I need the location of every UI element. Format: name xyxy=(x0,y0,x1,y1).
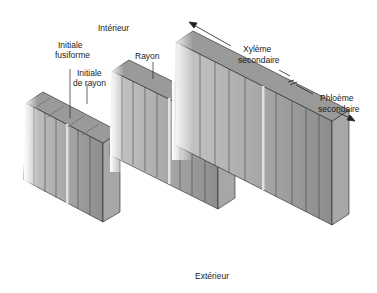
label-ray-initial-line2: de rayon xyxy=(73,78,106,88)
block-3-ray xyxy=(262,86,265,190)
block-1 xyxy=(24,92,120,222)
label-xylem-line2: secondaire xyxy=(238,55,280,65)
block-1-ray xyxy=(66,124,69,204)
label-phloem-line1: Phloème xyxy=(320,93,354,103)
label-exterior: Extérieur xyxy=(195,271,229,281)
block-3-front xyxy=(332,110,349,225)
cambium-diagram xyxy=(0,0,377,293)
label-fusiform-initial-line2: fusiforme xyxy=(55,50,90,60)
label-ray: Rayon xyxy=(135,51,160,61)
label-fusiform-initial-line1: Initiale xyxy=(58,40,83,50)
label-ray-initial-line1: Initiale xyxy=(77,68,102,78)
block-2-ray xyxy=(168,98,171,184)
label-xylem-line1: Xylème xyxy=(243,44,271,54)
label-interior: Intérieur xyxy=(98,23,129,33)
label-phloem-line2: secondaire xyxy=(318,104,360,114)
